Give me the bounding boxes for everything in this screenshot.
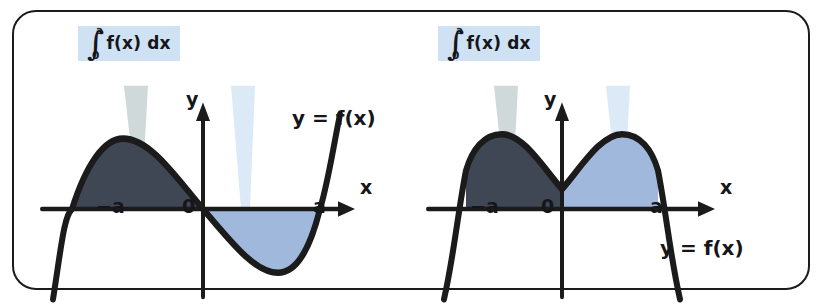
callout-integral-0-to-a: ∫ a 0 f(x) dx	[438, 26, 540, 61]
x-axis-label: x	[720, 178, 732, 197]
integral-upper-limit: a	[96, 25, 103, 36]
origin-label: 0	[182, 197, 195, 216]
shaded-region-light	[203, 209, 320, 273]
equation-odd: ∫ 0 −a f(x) dx + ∫ a 0 f(x) dx = 0	[78, 32, 158, 54]
x-axis-arrowhead	[698, 201, 715, 216]
math-integral-0-to-a: ∫ a 0 f(x) dx	[87, 30, 171, 56]
even-function-panel: ∫ 0 −a f(x) dx = ∫ a 0 f(x) dx y x	[410, 0, 800, 308]
x-axis-arrowhead	[338, 201, 355, 216]
integrand: f(x) dx	[466, 35, 530, 52]
figure-root: ∫ 0 −a f(x) dx + ∫ a 0 f(x) dx = 0	[0, 0, 826, 308]
y-axis-label: y	[186, 90, 198, 109]
math-integral-0-to-a: ∫ a 0 f(x) dx	[447, 30, 531, 56]
curve-label: y = f(x)	[292, 108, 376, 128]
integral-lower-limit: 0	[92, 50, 100, 61]
tick-label-a: a	[650, 197, 663, 216]
y-axis-arrowhead	[555, 102, 569, 121]
y-axis-label: y	[544, 90, 556, 109]
curve-label: y = f(x)	[660, 238, 744, 258]
integral-group: ∫ a 0	[87, 30, 104, 56]
x-axis-label: x	[360, 178, 372, 197]
integrand: f(x) dx	[106, 35, 170, 52]
odd-function-panel: ∫ 0 −a f(x) dx + ∫ a 0 f(x) dx = 0	[20, 0, 410, 308]
integral-upper-limit: a	[456, 25, 463, 36]
callout-integral-0-to-a: ∫ a 0 f(x) dx	[78, 26, 180, 61]
tick-label-negative-a: −a	[470, 197, 499, 216]
tick-label-negative-a: −a	[96, 197, 125, 216]
integral-lower-limit: 0	[452, 50, 460, 61]
integral-group: ∫ a 0	[447, 30, 464, 56]
tick-label-a: a	[313, 197, 326, 216]
origin-label: 0	[541, 197, 554, 216]
equation-even: ∫ 0 −a f(x) dx = ∫ a 0 f(x) dx	[438, 32, 468, 54]
